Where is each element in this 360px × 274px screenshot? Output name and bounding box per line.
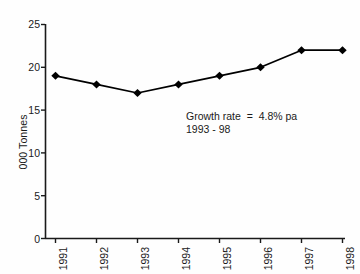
x-tick-label: 1991 bbox=[57, 247, 69, 274]
x-tick-label: 1995 bbox=[221, 247, 233, 274]
growth-rate-annotation: Growth rate = 4.8% pa 1993 - 98 bbox=[186, 110, 297, 136]
x-tick-label: 1998 bbox=[344, 247, 356, 274]
x-tick-label: 1997 bbox=[303, 247, 315, 274]
x-tick-label: 1996 bbox=[262, 247, 274, 274]
x-tick-label: 1993 bbox=[139, 247, 151, 274]
annotation-line-growth-rate: Growth rate = 4.8% pa bbox=[186, 110, 297, 123]
annotation-line-period: 1993 - 98 bbox=[186, 123, 297, 136]
x-tick-label: 1994 bbox=[180, 247, 192, 274]
line-chart: 000 Tonnes 25 20 15 10 5 0 bbox=[0, 0, 360, 274]
x-axis-tick-labels: 1991 1992 1993 1994 1995 1996 1997 1998 bbox=[0, 0, 360, 274]
x-tick-label: 1992 bbox=[98, 247, 110, 274]
